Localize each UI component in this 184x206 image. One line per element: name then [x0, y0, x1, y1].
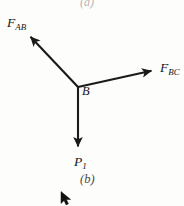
vector-label-fab-base: F [7, 15, 15, 30]
vector-label-p1-base: P [74, 154, 82, 169]
mouse-pointer-icon [60, 191, 74, 206]
vertex-label-b: B [82, 85, 90, 98]
force-diagram-figure: (a) FAB FBC P1 B (b) [0, 0, 184, 206]
figure-caption-b: (b) [80, 173, 95, 186]
vector-label-p1-subscript: 1 [82, 161, 87, 171]
vector-label-fbc: FBC [160, 61, 180, 75]
vector-line-fab [31, 37, 79, 87]
vector-label-fbc-subscript: BC [168, 67, 180, 77]
vector-label-p1: P1 [74, 155, 87, 169]
vector-label-fab: FAB [7, 16, 26, 30]
vector-label-fbc-base: F [160, 60, 168, 75]
vector-label-fab-subscript: AB [15, 22, 26, 32]
